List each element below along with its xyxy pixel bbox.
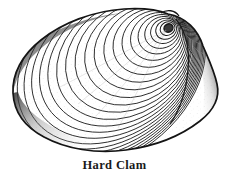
figure-caption: Hard Clam [0, 158, 229, 172]
hard-clam-shell-illustration [0, 0, 229, 158]
figure-plate: Hard Clam [0, 0, 229, 180]
shell-body-group [0, 0, 229, 158]
clam-illustration-container [0, 0, 229, 158]
